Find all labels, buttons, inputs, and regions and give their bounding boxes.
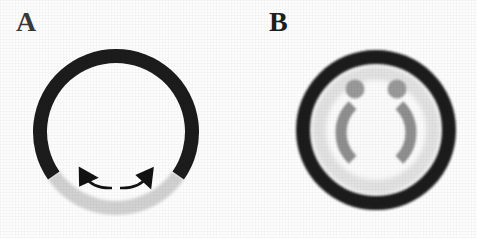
left-dot-icon <box>346 80 365 99</box>
arrow-left-curved <box>86 178 112 189</box>
panel-a-diagram <box>0 0 239 238</box>
arrow-right-curved <box>120 178 147 189</box>
right-dot-icon <box>388 80 407 99</box>
panel-a-light-arc <box>48 172 184 216</box>
panel-a-arrows <box>86 178 147 189</box>
panel-a-dark-ring-group <box>33 49 199 180</box>
panel-a-light-arc-group <box>48 172 184 216</box>
panel-b: B <box>239 0 477 238</box>
figure-container: A <box>0 0 477 238</box>
panel-b-diagram <box>239 0 477 238</box>
panel-a-dark-arc <box>33 49 199 180</box>
panel-a: A <box>0 0 239 238</box>
